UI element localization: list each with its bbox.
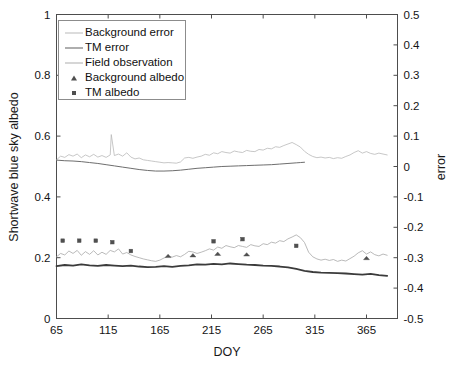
y-axis-right-tick-label: 0.3 bbox=[404, 69, 420, 81]
y-axis-right-tick-label: -0.1 bbox=[404, 191, 424, 203]
x-axis-tick-label: 315 bbox=[305, 324, 324, 336]
x-axis-label: DOY bbox=[213, 345, 240, 359]
x-axis-tick-label: 115 bbox=[99, 324, 117, 336]
y-axis-left-tick-label: 0.6 bbox=[35, 130, 51, 142]
legend-line-icon bbox=[65, 63, 83, 64]
x-axis-tick-label: 65 bbox=[50, 324, 63, 336]
y-axis-left-tick-label: 0.8 bbox=[35, 69, 51, 81]
legend-item-label: Background error bbox=[85, 27, 174, 39]
legend-line-swatch-icon bbox=[63, 55, 85, 71]
legend-line-icon bbox=[65, 48, 83, 49]
chart-figure: Shortwave blue sky albedo error DOY Back… bbox=[0, 0, 455, 372]
legend-item-label: Background albedo bbox=[85, 72, 184, 84]
legend-item: TM error bbox=[63, 40, 129, 56]
y-axis-left-tick-label: 0.4 bbox=[35, 191, 51, 203]
x-axis-tick-label: 165 bbox=[150, 324, 169, 336]
legend-item: Field observation bbox=[63, 55, 173, 71]
square-icon bbox=[72, 91, 76, 95]
x-axis-tick-label: 365 bbox=[357, 324, 376, 336]
y-axis-left-tick-label: 1 bbox=[44, 9, 50, 21]
x-axis-tick-label: 215 bbox=[202, 324, 221, 336]
legend-line-icon bbox=[65, 33, 83, 34]
y-axis-right-label: error bbox=[434, 153, 448, 179]
y-axis-left-tick-label: 0.2 bbox=[35, 252, 51, 264]
y-axis-right-tick-label: 0.4 bbox=[404, 39, 420, 51]
y-axis-right-tick-label: 0.1 bbox=[404, 130, 420, 142]
y-axis-right-tick-label: -0.4 bbox=[404, 282, 424, 294]
y-axis-right-tick-label: -0.2 bbox=[404, 221, 424, 233]
y-axis-right-tick-label: 0.2 bbox=[404, 100, 420, 112]
y-axis-right-tick-label: 0.5 bbox=[404, 9, 420, 21]
y-axis-left-label: Shortwave blue sky albedo bbox=[7, 92, 21, 241]
y-axis-left-tick-label: 0 bbox=[44, 313, 50, 325]
legend-item-label: TM albedo bbox=[85, 87, 139, 99]
legend-line-swatch-icon bbox=[63, 40, 85, 56]
legend-item-label: TM error bbox=[85, 42, 129, 54]
legend-triangle-marker-icon bbox=[63, 70, 85, 86]
x-axis-tick-label: 265 bbox=[254, 324, 273, 336]
legend-item: TM albedo bbox=[63, 85, 139, 101]
y-axis-right-tick-label: -0.3 bbox=[404, 252, 424, 264]
y-axis-right-tick-label: -0.5 bbox=[404, 313, 424, 325]
legend-item: Background error bbox=[63, 25, 174, 41]
triangle-icon bbox=[71, 76, 77, 81]
legend-line-swatch-icon bbox=[63, 25, 85, 41]
legend-square-marker-icon bbox=[63, 85, 85, 101]
legend-item: Background albedo bbox=[63, 70, 184, 86]
y-axis-right-tick-label: 0 bbox=[404, 161, 410, 173]
legend-item-label: Field observation bbox=[85, 57, 173, 69]
chart-legend: Background errorTM errorField observatio… bbox=[58, 20, 186, 100]
